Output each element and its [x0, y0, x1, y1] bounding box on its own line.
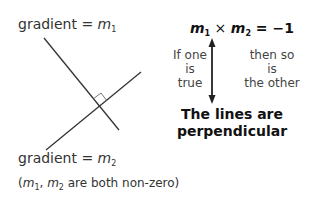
right-condition-text: then so is the other [242, 48, 302, 90]
left-condition-text: If one is true [172, 48, 208, 90]
line-gradient-m2 [46, 72, 141, 150]
arrow-up-icon [209, 38, 216, 47]
non-zero-note: (m1, m2 are both non-zero) [18, 176, 179, 192]
perpendicular-condition-equation: m1 × m2 = −1 [190, 20, 294, 38]
arrow-down-icon [209, 95, 216, 104]
label-gradient-m1: gradient = m1 [18, 16, 116, 34]
label-gradient-m2: gradient = m2 [18, 150, 116, 168]
conclusion-text: The lines are perpendicular [170, 106, 294, 140]
line-gradient-m1 [44, 38, 119, 130]
